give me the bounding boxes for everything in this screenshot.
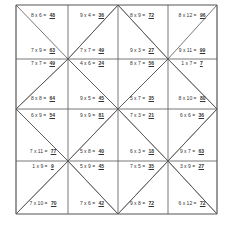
- diagonal-line: [68, 59, 118, 109]
- problem-answer: 49: [96, 47, 106, 53]
- problem-answer: 27: [146, 47, 156, 53]
- problem-answer: 45: [96, 163, 106, 169]
- problem-item: 7 x 10 = 70: [30, 200, 59, 206]
- problem-answer: 72: [146, 12, 156, 18]
- problem-answer: 9: [49, 163, 56, 169]
- problem-answer: 63: [47, 47, 57, 53]
- problem-expression: 9 x 7 =: [180, 148, 197, 154]
- problem-item: 9 x 9 = 81: [80, 112, 106, 118]
- problem-answer: 56: [146, 60, 156, 66]
- problem-item: 7 x 9 = 63: [31, 47, 57, 53]
- problem-expression: 5 x 7 =: [130, 95, 147, 101]
- problem-expression: 8 x 8 =: [31, 95, 48, 101]
- problem-expression: 6 x 12 =: [179, 200, 198, 206]
- problem-item: 8 x 7 = 56: [130, 60, 156, 66]
- problem-item: 5 x 8 = 40: [80, 148, 106, 154]
- problem-expression: 8 x 6 =: [31, 12, 48, 18]
- problem-expression: 9 x 4 =: [80, 12, 97, 18]
- problem-expression: 9 x 5 =: [80, 95, 97, 101]
- problem-item: 6 x 12 = 72: [179, 200, 208, 206]
- problem-answer: 21: [146, 112, 156, 118]
- problem-expression: 6 x 6 =: [180, 112, 197, 118]
- problem-expression: 6 x 9 =: [31, 112, 48, 118]
- problem-answer: 96: [198, 12, 208, 18]
- problem-item: 7 x 3 = 21: [130, 112, 156, 118]
- problem-item: 6 x 3 = 18: [130, 148, 156, 154]
- problem-expression: 7 x 9 =: [31, 47, 48, 53]
- problem-item: 1 x 9 = 9: [32, 163, 55, 169]
- problem-item: 9 x 7 = 63: [180, 148, 206, 154]
- problem-answer: 45: [96, 95, 106, 101]
- problem-expression: 7 x 3 =: [130, 112, 147, 118]
- problem-expression: 7 x 7 =: [31, 60, 48, 66]
- problem-item: 7 x 7 = 49: [80, 47, 106, 53]
- problem-item: 7 x 7 = 49: [31, 60, 57, 66]
- problem-item: 7 x 6 = 42: [80, 200, 106, 206]
- problem-item: 5 x 9 = 45: [80, 163, 106, 169]
- problem-item: 5 x 7 = 35: [130, 95, 156, 101]
- problem-item: 8 x 9 = 72: [130, 12, 156, 18]
- problem-item: 8 x 12 = 96: [179, 12, 208, 18]
- problem-answer: 77: [49, 148, 59, 154]
- problem-answer: 7: [198, 60, 205, 66]
- problem-expression: 1 x 7 =: [181, 60, 198, 66]
- problem-item: 7 x 11 = 77: [30, 148, 59, 154]
- problem-item: 8 x 8 = 64: [31, 95, 57, 101]
- problem-answer: 49: [47, 60, 57, 66]
- problem-answer: 36: [196, 112, 206, 118]
- problem-expression: 8 x 9 =: [130, 12, 147, 18]
- problem-expression: 7 x 6 =: [80, 200, 97, 206]
- diagonal-line: [168, 59, 217, 109]
- problem-expression: 7 x 10 =: [30, 200, 49, 206]
- problem-answer: 72: [198, 200, 208, 206]
- problem-item: 4 x 6 = 24: [80, 60, 106, 66]
- problem-expression: 7 x 7 =: [80, 47, 97, 53]
- problem-item: 7 x 5 = 35: [130, 163, 156, 169]
- problem-item: 9 x 4 = 36: [80, 12, 106, 18]
- diagonal-line: [16, 59, 68, 109]
- problem-answer: 72: [146, 200, 156, 206]
- problem-answer: 63: [196, 148, 206, 154]
- problem-expression: 8 x 7 =: [130, 60, 147, 66]
- problem-answer: 81: [96, 112, 106, 118]
- problem-item: 9 x 3 = 27: [130, 47, 156, 53]
- problem-expression: 9 x 9 =: [80, 112, 97, 118]
- problem-item: 9 x 5 = 45: [80, 95, 106, 101]
- problem-item: 6 x 6 = 36: [180, 112, 206, 118]
- problem-expression: 9 x 3 =: [130, 47, 147, 53]
- problem-item: 8 x 10 = 80: [179, 95, 208, 101]
- problem-answer: 36: [96, 12, 106, 18]
- problem-item: 3 x 9 = 27: [180, 163, 206, 169]
- problem-expression: 4 x 6 =: [80, 60, 97, 66]
- problem-answer: 18: [146, 148, 156, 154]
- problem-answer: 35: [146, 163, 156, 169]
- problem-expression: 6 x 3 =: [130, 148, 147, 154]
- problem-answer: 42: [96, 200, 106, 206]
- problem-expression: 1 x 9 =: [32, 163, 49, 169]
- problem-expression: 9 x 8 =: [130, 200, 147, 206]
- problem-answer: 64: [47, 95, 57, 101]
- problem-answer: 40: [96, 148, 106, 154]
- problem-answer: 70: [49, 200, 59, 206]
- problem-expression: 5 x 8 =: [80, 148, 97, 154]
- problem-item: 9 x 11 = 99: [179, 47, 208, 53]
- problem-answer: 99: [198, 47, 208, 53]
- problem-expression: 7 x 5 =: [130, 163, 147, 169]
- problem-expression: 9 x 11 =: [179, 47, 198, 53]
- problem-answer: 24: [96, 60, 106, 66]
- diagonal-line: [118, 59, 168, 109]
- problem-expression: 7 x 11 =: [30, 148, 49, 154]
- problem-item: 1 x 7 = 7: [181, 60, 204, 66]
- problem-answer: 48: [47, 12, 57, 18]
- problem-answer: 35: [146, 95, 156, 101]
- problem-item: 8 x 6 = 48: [31, 12, 57, 18]
- problem-item: 6 x 9 = 54: [31, 112, 57, 118]
- problem-expression: 8 x 12 =: [179, 12, 198, 18]
- problem-answer: 80: [198, 95, 208, 101]
- problem-answer: 54: [47, 112, 57, 118]
- problem-expression: 3 x 9 =: [180, 163, 197, 169]
- problem-item: 9 x 8 = 72: [130, 200, 156, 206]
- problem-expression: 5 x 9 =: [80, 163, 97, 169]
- problem-expression: 8 x 10 =: [179, 95, 198, 101]
- problem-answer: 27: [196, 163, 206, 169]
